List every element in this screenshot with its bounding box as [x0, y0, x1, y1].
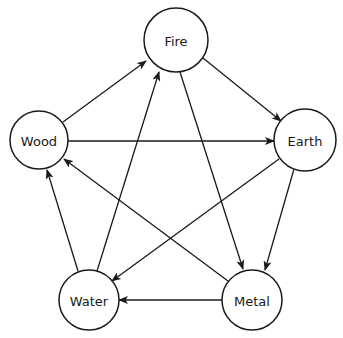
node-group	[10, 8, 336, 330]
diagram-canvas	[0, 0, 343, 338]
five-elements-diagram: Fire Wood Earth Water Metal	[0, 0, 343, 338]
edge-fire-to-earth	[203, 58, 281, 121]
edge-fire-to-metal	[180, 72, 243, 269]
node-label-wood: Wood	[21, 134, 57, 149]
edge-earth-to-metal	[265, 169, 294, 270]
edge-group	[47, 58, 294, 300]
edge-water-to-wood	[47, 170, 78, 271]
edge-earth-to-water	[112, 159, 279, 281]
node-label-earth: Earth	[288, 134, 323, 149]
node-label-water: Water	[70, 294, 108, 309]
node-label-metal: Metal	[234, 294, 270, 309]
edge-water-to-fire	[97, 72, 159, 271]
node-label-fire: Fire	[164, 34, 187, 49]
edge-metal-to-wood	[64, 159, 228, 281]
edge-wood-to-fire	[63, 61, 146, 122]
